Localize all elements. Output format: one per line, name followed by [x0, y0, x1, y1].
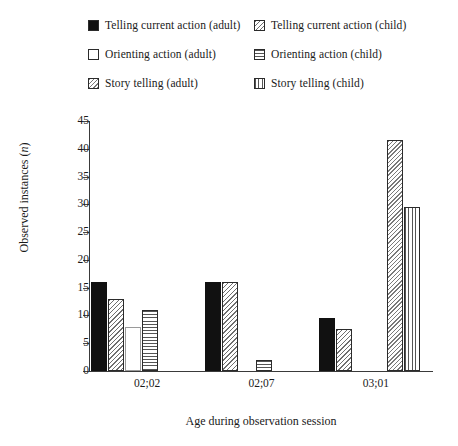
y-axis-tick-label-wrap: 5 — [51, 343, 89, 344]
y-axis-tick-label: 5 — [63, 337, 89, 348]
y-axis-tick-label: 45 — [63, 115, 89, 126]
bar — [336, 329, 352, 371]
y-axis-tick-label: 30 — [63, 198, 89, 209]
bar — [222, 282, 238, 371]
bar — [108, 299, 124, 371]
y-axis-tick-label: 25 — [63, 226, 89, 237]
bar — [91, 282, 107, 371]
y-axis-tick-label: 0 — [63, 365, 89, 376]
y-axis-title-italic-n: n — [17, 147, 31, 153]
x-axis-tick-label: 02;02 — [90, 377, 204, 389]
bar — [205, 282, 221, 371]
bar — [125, 327, 141, 371]
bar — [404, 207, 420, 371]
y-axis-tick-label-wrap: 40 — [51, 149, 89, 150]
y-axis-tick-label: 10 — [63, 309, 89, 320]
bar-group: 02;02 — [90, 121, 204, 371]
bar — [142, 310, 158, 371]
x-axis-title: Age during observation session — [89, 414, 433, 429]
bar-group: 03;01 — [319, 121, 433, 371]
x-axis-tick-label: 02;07 — [204, 377, 318, 389]
bar — [256, 360, 272, 371]
y-axis-tick-label-wrap: 10 — [51, 315, 89, 316]
y-axis-tick-label: 20 — [63, 254, 89, 265]
y-axis-tick-label: 15 — [63, 282, 89, 293]
y-axis-tick-label: 40 — [63, 143, 89, 154]
y-axis-tick-label-wrap: 35 — [51, 177, 89, 178]
x-axis-tick-label: 03;01 — [319, 377, 433, 389]
chart-plot-area: 051015202530354045 Observed instances (n… — [0, 0, 458, 446]
y-axis-tick-label-wrap: 25 — [51, 232, 89, 233]
y-axis-tick-label-wrap: 0 — [51, 371, 89, 372]
y-axis-title-tail: ) — [17, 143, 31, 147]
bar — [387, 140, 403, 371]
y-axis-tick-label-wrap: 45 — [51, 121, 89, 122]
y-axis-tick-label-wrap: 15 — [51, 288, 89, 289]
x-axis-line — [89, 371, 433, 372]
y-axis-tick-label-wrap: 20 — [51, 260, 89, 261]
y-axis-title-text: Observed instances ( — [17, 153, 31, 253]
y-axis-title: Observed instances (n) — [17, 108, 32, 288]
bar — [319, 318, 335, 371]
y-axis-tick-label-wrap: 30 — [51, 204, 89, 205]
bar-group: 02;07 — [204, 121, 318, 371]
y-axis-tick-label: 35 — [63, 171, 89, 182]
